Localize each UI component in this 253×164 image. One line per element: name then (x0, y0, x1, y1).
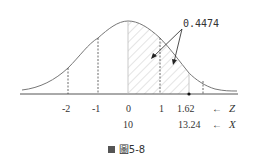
z-tick-minus1: -1 (92, 104, 100, 114)
z-tick-162: 1.62 (177, 104, 195, 114)
figure-caption: 圖5-8 (0, 141, 253, 156)
caption-text: 圖5-8 (119, 144, 145, 155)
z-tick-1: 1 (159, 104, 164, 114)
z-tick-0: 0 (126, 104, 131, 114)
z-tick-minus2: -2 (62, 104, 70, 114)
z-arrow-icon: ← (212, 104, 222, 114)
caption-square-icon (108, 146, 115, 153)
arrow-right (174, 29, 182, 62)
x-tick-10: 10 (123, 120, 133, 130)
x-tick-1324: 13.24 (178, 120, 201, 130)
x-arrow-icon: ← (212, 120, 222, 130)
x-axis-label: X (229, 119, 236, 129)
area-annotation: 0.4474 (183, 19, 219, 29)
z-axis-label: Z (229, 103, 235, 113)
hatched-area (128, 21, 189, 94)
z-162-point (187, 92, 190, 95)
